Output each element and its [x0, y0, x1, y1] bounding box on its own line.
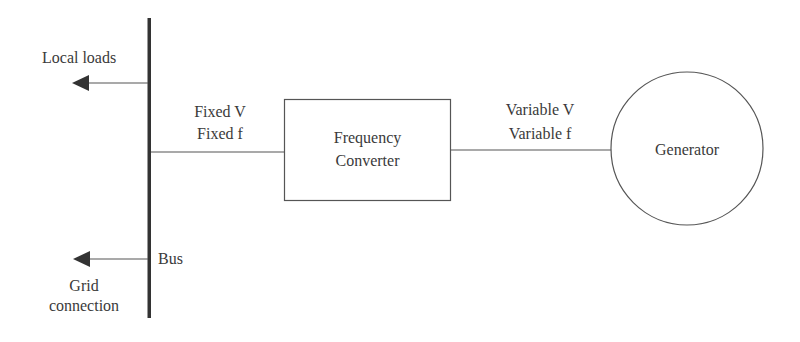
- grid-connection-arrow-icon: [73, 251, 90, 267]
- variable-v-label: Variable V: [480, 98, 600, 122]
- frequency-converter-label-line1: Frequency: [284, 126, 451, 149]
- variable-f-label: Variable f: [480, 122, 600, 146]
- fixed-v-label: Fixed V: [175, 101, 265, 123]
- bus-label: Bus: [158, 249, 183, 269]
- frequency-converter-label-line2: Converter: [284, 149, 451, 172]
- fixed-v-f-label: Fixed V Fixed f: [175, 101, 265, 145]
- local-loads-arrow-icon: [72, 75, 89, 91]
- grid-connection-label: Grid connection: [34, 276, 134, 316]
- grid-connection-label-line1: Grid: [34, 276, 134, 296]
- fixed-f-label: Fixed f: [175, 123, 265, 145]
- diagram-canvas: Local loads Bus Grid connection Fixed V …: [0, 0, 800, 342]
- grid-connection-label-line2: connection: [34, 296, 134, 316]
- frequency-converter-label: Frequency Converter: [284, 126, 451, 172]
- bus-bar: [148, 18, 152, 318]
- local-loads-label: Local loads: [42, 48, 116, 68]
- variable-v-f-label: Variable V Variable f: [480, 98, 600, 146]
- generator-label: Generator: [611, 140, 763, 160]
